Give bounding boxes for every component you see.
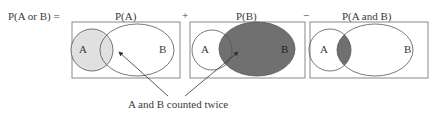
panel1-label-a: A — [79, 43, 87, 55]
panel3-label-a: A — [320, 43, 328, 55]
annotation-text: A and B counted twice — [128, 98, 228, 110]
term-p-a: P(A) — [115, 10, 136, 22]
panel3-label-b: B — [404, 43, 411, 55]
panel2-label-a: A — [201, 43, 209, 55]
term-p-a-and-b: P(A and B) — [342, 10, 392, 22]
minus-operator: − — [303, 9, 309, 21]
term-p-b: P(B) — [236, 10, 257, 22]
plus-operator: + — [182, 9, 188, 21]
panel2-label-b: B — [281, 43, 288, 55]
annotation-arrows — [119, 52, 238, 96]
equation-lhs: P(A or B) = — [8, 10, 60, 22]
panel1-label-b: B — [159, 43, 166, 55]
